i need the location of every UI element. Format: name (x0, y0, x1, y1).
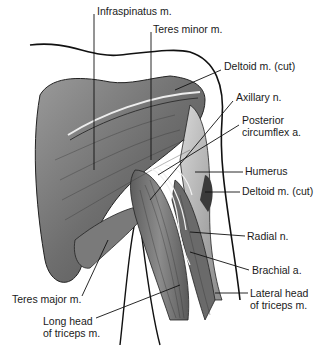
label-deltoid-cut-top: Deltoid m. (cut) (224, 60, 295, 72)
label-axillary-n: Axillary n. (236, 91, 282, 103)
label-long-head-line1: Long head (43, 315, 93, 327)
label-lateral-head-line2: of triceps m. (250, 299, 307, 311)
label-posterior-circumflex-line1: Posterior (242, 114, 284, 126)
label-brachial-a: Brachial a. (252, 264, 302, 276)
label-infraspinatus: Infraspinatus m. (97, 5, 172, 17)
label-posterior-circumflex-line2: circumflex a. (242, 126, 301, 138)
label-teres-major: Teres major m. (12, 293, 81, 305)
label-radial-n: Radial n. (247, 230, 288, 242)
label-teres-minor: Teres minor m. (153, 23, 222, 35)
label-long-head-line2: of triceps m. (43, 327, 100, 339)
label-humerus: Humerus (245, 165, 288, 177)
label-lateral-head-line1: Lateral head (250, 287, 308, 299)
label-deltoid-cut-lower: Deltoid m. (cut) (242, 185, 313, 197)
